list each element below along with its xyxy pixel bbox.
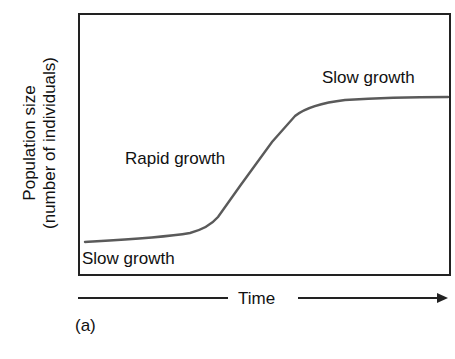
logistic-growth-curve <box>85 97 448 242</box>
y-axis-label: Population size (number of individuals) <box>0 0 80 290</box>
y-axis-label-line1: Population size <box>20 57 40 229</box>
annotation-early-slow-growth: Slow growth <box>82 250 175 267</box>
x-axis-label: Time <box>238 290 275 307</box>
annotation-late-slow-growth: Slow growth <box>322 69 415 86</box>
y-axis-label-line2: (number of individuals) <box>40 57 60 229</box>
time-arrow-head-icon <box>437 293 448 303</box>
panel-label: (a) <box>75 317 96 334</box>
annotation-rapid-growth: Rapid growth <box>125 150 225 167</box>
